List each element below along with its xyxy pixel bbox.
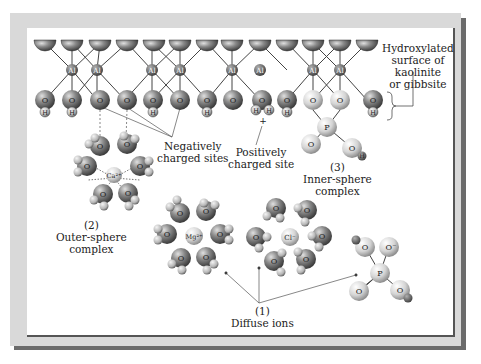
svg-text:O: O (308, 140, 315, 149)
label-outer-sphere-complex: (2) Outer-sphere complex (56, 219, 127, 255)
svg-text:+: + (259, 116, 267, 126)
diffuse-magnesium-complex: O O O O O O Mg²⁺ (154, 196, 234, 275)
svg-text:Al: Al (255, 67, 264, 75)
svg-text:H: H (359, 152, 364, 159)
svg-text:O: O (349, 144, 356, 153)
svg-text:O: O (124, 96, 131, 105)
label-negatively-charged-sites: Negatively charged sites (157, 140, 229, 164)
svg-text:Al: Al (92, 67, 101, 75)
label-positively-charged-site: Positively charged site (228, 146, 294, 170)
svg-text:Cl⁻: Cl⁻ (284, 234, 296, 242)
svg-text:O⁻: O⁻ (386, 243, 397, 252)
svg-text:Al: Al (308, 67, 317, 75)
svg-text:O: O (273, 204, 280, 213)
svg-text:Mg²⁺: Mg²⁺ (186, 233, 203, 241)
svg-text:O: O (204, 96, 211, 105)
svg-text:H: H (284, 109, 290, 117)
svg-text:H: H (42, 109, 48, 117)
svg-text:O: O (84, 162, 91, 171)
svg-text:O: O (177, 96, 184, 105)
svg-text:O: O (203, 253, 210, 262)
svg-text:O: O (271, 257, 278, 266)
svg-text:O: O (164, 230, 171, 239)
inner-sphere-phosphate: P O O H (301, 110, 367, 161)
svg-text:H: H (370, 109, 376, 117)
svg-text:H: H (204, 109, 210, 117)
svg-text:O: O (97, 142, 104, 151)
svg-text:O: O (230, 96, 237, 105)
diffuse-ion-pointers (225, 267, 357, 303)
svg-text:Ca²⁺: Ca²⁺ (107, 172, 122, 180)
surface-oxygen-row: O O O O O O O O O O O O O (35, 90, 383, 110)
label-inner-sphere-complex: (3) Inner-sphere complex (303, 161, 372, 197)
positive-site-pointer: + (256, 116, 267, 145)
svg-text:Al: Al (67, 67, 76, 75)
svg-text:Al: Al (175, 67, 184, 75)
svg-text:O: O (69, 96, 76, 105)
svg-text:H: H (266, 107, 272, 115)
svg-text:O: O (178, 254, 185, 263)
outer-sphere-calcium-complex: O O O O O O Ca²⁺ (74, 132, 154, 211)
svg-text:O: O (356, 287, 363, 296)
svg-text:O: O (177, 209, 184, 218)
svg-text:O: O (284, 96, 291, 105)
svg-text:O: O (217, 230, 224, 239)
svg-text:O: O (97, 96, 104, 105)
svg-text:H: H (150, 109, 156, 117)
svg-text:O: O (253, 233, 260, 242)
diffuse-chloride-complex: O O O O O O Cl⁻ (246, 198, 332, 277)
svg-text:O: O (42, 96, 49, 105)
svg-text:O: O (304, 206, 311, 215)
svg-text:Al: Al (335, 67, 344, 75)
svg-text:O: O (362, 243, 369, 252)
svg-text:P: P (324, 123, 330, 132)
svg-text:P: P (377, 269, 383, 278)
diffuse-phosphate: O O⁻ P O O (349, 236, 413, 303)
svg-text:H: H (69, 109, 75, 117)
negative-site-pointers (100, 108, 180, 140)
svg-text:O: O (319, 232, 326, 241)
svg-text:Al: Al (147, 67, 156, 75)
svg-text:H: H (253, 107, 259, 115)
surface-top-atoms (34, 40, 378, 51)
svg-text:O: O (100, 190, 107, 199)
svg-text:O: O (303, 255, 310, 264)
svg-text:O: O (397, 286, 404, 295)
label-hydroxylated-surface: Hydroxylated surface of kaolinite or gib… (382, 42, 454, 90)
svg-text:O: O (259, 96, 266, 105)
svg-text:O: O (310, 96, 317, 105)
svg-text:O: O (337, 96, 344, 105)
svg-text:O: O (124, 140, 131, 149)
svg-text:O: O (203, 207, 210, 216)
label-diffuse-ions: (1) Diffuse ions (231, 305, 294, 329)
svg-text:O: O (125, 189, 132, 198)
svg-text:O: O (370, 96, 377, 105)
svg-text:O: O (137, 162, 144, 171)
aluminum-atoms: Al Al Al Al Al Al Al Al (66, 64, 346, 76)
svg-text:O: O (150, 96, 157, 105)
svg-text:Al: Al (227, 67, 236, 75)
